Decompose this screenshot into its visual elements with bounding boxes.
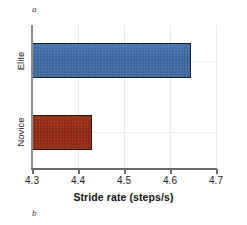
x-tick-label: 4.7 bbox=[202, 175, 230, 186]
x-tick bbox=[124, 169, 126, 174]
bar-novice[interactable] bbox=[32, 115, 92, 150]
x-tick bbox=[216, 169, 218, 174]
panel-letter-a: a bbox=[32, 4, 37, 14]
figure-panel-a: a 4.34.44.54.64.7 EliteNovice Stride rat… bbox=[0, 0, 247, 225]
y-axis-line bbox=[31, 25, 33, 169]
panel-letter-b: b bbox=[32, 208, 37, 218]
bar-elite[interactable] bbox=[32, 43, 191, 78]
plot-area bbox=[32, 25, 216, 168]
x-tick bbox=[32, 169, 34, 174]
x-tick-label: 4.4 bbox=[64, 175, 92, 186]
bar-texture bbox=[33, 116, 91, 149]
y-category-label-novice: Novice bbox=[14, 109, 28, 155]
y-category-label-elite: Elite bbox=[14, 38, 28, 84]
x-axis-title: Stride rate (steps/s) bbox=[0, 191, 247, 203]
x-tick-label: 4.3 bbox=[18, 175, 46, 186]
bar-texture bbox=[33, 44, 190, 77]
x-tick-label: 4.6 bbox=[156, 175, 184, 186]
x-tick bbox=[170, 169, 172, 174]
x-tick-label: 4.5 bbox=[110, 175, 138, 186]
x-tick bbox=[78, 169, 80, 174]
gridline-x bbox=[216, 25, 217, 168]
